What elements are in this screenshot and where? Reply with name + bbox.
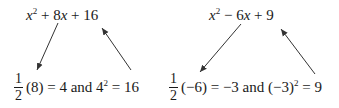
arrows-layer [0,0,339,108]
left-down-arrow-icon [37,23,58,70]
right-up-arrow-icon [281,29,315,74]
right-down-arrow-icon [200,24,241,72]
left-up-arrow-icon [102,28,131,70]
